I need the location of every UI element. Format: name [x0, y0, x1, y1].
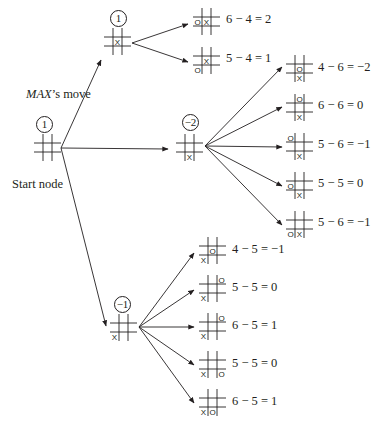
board-middle: X — [176, 134, 203, 161]
x-mark: X — [297, 152, 303, 161]
o-mark: O — [218, 370, 224, 379]
x-mark: X — [297, 191, 303, 200]
edge-root-bottom — [61, 148, 106, 326]
leaf-eval-middle-3: 5 − 5 = 0 — [318, 177, 363, 190]
board-leaf-bottom-3: XO — [199, 351, 226, 378]
board-leaf-bottom-4: XO — [199, 389, 226, 416]
leaf-eval-middle-0: 4 − 6 = −2 — [318, 61, 370, 74]
board-bottom: X — [110, 314, 137, 341]
middle-value-circle: −2 — [182, 114, 199, 131]
board-leaf-top-1: XO — [193, 47, 220, 74]
x-mark: X — [112, 333, 118, 342]
edge-root-middle — [61, 148, 168, 149]
leaf-eval-middle-2: 5 − 6 = −1 — [318, 138, 370, 151]
o-mark: O — [296, 95, 302, 104]
max-move-label: MAX’s move — [26, 88, 91, 101]
board-leaf-top-0: OX — [193, 8, 220, 35]
o-mark: O — [194, 18, 200, 27]
x-mark: X — [187, 153, 193, 162]
board-leaf-middle-3: OX — [286, 172, 313, 199]
o-mark: O — [218, 276, 224, 285]
board-leaf-middle-4: OX — [286, 211, 313, 238]
x-mark: X — [297, 74, 303, 83]
o-mark: O — [209, 408, 215, 417]
board-top: X — [104, 28, 131, 55]
root-value-circle: 1 — [36, 116, 53, 133]
x-mark: X — [201, 256, 207, 265]
board-leaf-bottom-0: OX — [199, 237, 226, 264]
board-leaf-bottom-1: OX — [199, 275, 226, 302]
leaf-eval-middle-1: 6 − 6 = 0 — [318, 99, 363, 112]
o-mark: O — [287, 134, 293, 143]
start-node-label: Start node — [12, 178, 63, 191]
o-mark: O — [287, 230, 293, 239]
x-mark: X — [115, 38, 121, 47]
top-value-circle: 1 — [110, 10, 127, 27]
leaf-eval-bottom-4: 6 − 5 = 1 — [232, 395, 277, 408]
o-mark: O — [209, 247, 215, 256]
x-mark: X — [201, 294, 207, 303]
leaf-eval-bottom-0: 4 − 5 = −1 — [232, 243, 284, 256]
board-leaf-bottom-2: OX — [199, 313, 226, 340]
x-mark: X — [201, 332, 207, 341]
leaf-eval-bottom-2: 6 − 5 = 1 — [232, 319, 277, 332]
o-mark: O — [194, 66, 200, 75]
leaf-eval-top-0: 6 − 4 = 2 — [226, 13, 271, 26]
o-mark: O — [296, 65, 302, 74]
bottom-value-circle: −1 — [114, 296, 131, 313]
o-mark: O — [287, 182, 293, 191]
leaf-eval-bottom-3: 5 − 5 = 0 — [232, 357, 277, 370]
leaf-eval-bottom-1: 5 − 5 = 0 — [232, 281, 277, 294]
edge-root-top — [61, 60, 101, 148]
max-text: MAX — [26, 87, 52, 101]
x-mark: X — [297, 230, 303, 239]
x-mark: X — [204, 18, 210, 27]
board-leaf-middle-0: OX — [286, 55, 313, 82]
o-mark: O — [218, 314, 224, 323]
board-leaf-middle-2: OX — [286, 133, 313, 160]
x-mark: X — [204, 57, 210, 66]
x-mark: X — [201, 370, 207, 379]
leaf-eval-top-1: 5 − 4 = 1 — [226, 52, 271, 65]
x-mark: X — [201, 408, 207, 417]
move-text: ’s move — [52, 87, 91, 101]
board-root — [34, 134, 61, 161]
board-leaf-middle-1: OX — [286, 94, 313, 121]
leaf-eval-middle-4: 5 − 6 = −1 — [318, 216, 370, 229]
x-mark: X — [297, 113, 303, 122]
